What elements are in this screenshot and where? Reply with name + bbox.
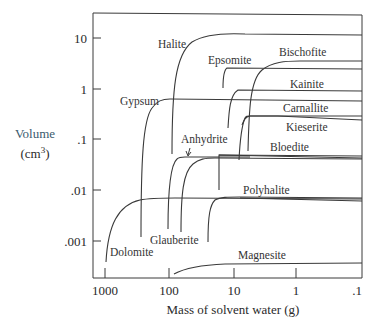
label-epsomite: Epsomite	[208, 54, 251, 67]
x-tick-10: 10	[228, 283, 241, 298]
x-tick-1000: 1000	[92, 283, 118, 298]
x-axis-ticks	[105, 268, 296, 278]
label-bloedite: Bloedite	[270, 141, 309, 153]
x-axis-tick-labels: 1000 100 10 1 .1	[92, 283, 362, 298]
x-tick-100: 100	[159, 283, 179, 298]
label-magnesite: Magnesite	[238, 249, 286, 262]
label-polyhalite: Polyhalite	[243, 184, 290, 197]
mineral-curves	[106, 34, 362, 274]
label-bischofite: Bischofite	[279, 46, 326, 58]
y-axis-tick-labels: 10 1 .1 .01 .001	[64, 31, 87, 249]
label-kainite: Kainite	[290, 78, 324, 90]
label-dolomite: Dolomite	[110, 246, 153, 258]
y-axis-ticks	[93, 38, 101, 241]
label-carnallite: Carnallite	[283, 102, 328, 114]
curve-gypsum	[141, 99, 362, 237]
label-glauberite: Glauberite	[150, 234, 199, 246]
y-tick-10: 10	[74, 31, 87, 46]
y-axis-unit: (cm3)	[20, 145, 49, 161]
label-gypsum: Gypsum	[120, 95, 159, 108]
x-axis-title: Mass of solvent water (g)	[167, 302, 300, 317]
x-tick-1: 1	[293, 283, 300, 298]
label-halite: Halite	[158, 38, 186, 50]
y-tick-0.01: .01	[71, 183, 87, 198]
label-kieserite: Kieserite	[286, 121, 328, 133]
y-tick-0.001: .001	[64, 234, 87, 249]
curve-bloedite	[219, 155, 362, 190]
y-tick-0.1: .1	[77, 132, 87, 147]
curve-magnesite	[174, 263, 362, 274]
y-axis-title: Volume	[15, 126, 55, 141]
label-anhydrite: Anhydrite	[181, 133, 228, 146]
curve-polyhalite	[208, 197, 362, 242]
x-tick-0.1: .1	[352, 283, 362, 298]
y-tick-1: 1	[81, 82, 88, 97]
evaporite-precipitation-chart: 10 1 .1 .01 .001 1000 100 10 1 .1 Volume…	[0, 0, 374, 326]
anhydrite-arrow-icon	[186, 148, 191, 156]
